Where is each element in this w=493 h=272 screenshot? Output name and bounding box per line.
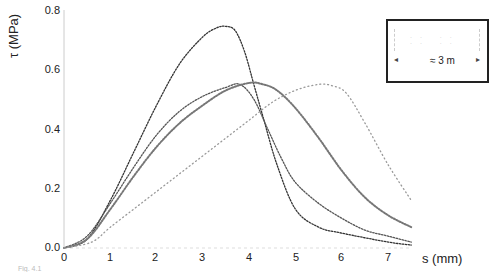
x-tick-label: 3 — [195, 251, 209, 263]
data-series-curve — [64, 26, 411, 248]
arrow-left-icon: ◂ — [394, 55, 398, 64]
x-axis-label: s (mm) — [422, 251, 462, 266]
arrow-right-icon: ▸ — [476, 55, 480, 64]
x-tick-label: 6 — [334, 251, 348, 263]
y-tick-label: 0.8 — [40, 4, 60, 16]
data-series-curve — [64, 84, 411, 248]
inset-diagram: ·· ·· ·· ·· ◂ ≈ 3 m ▸ — [386, 19, 489, 83]
data-series-curve — [64, 84, 411, 248]
y-tick-label: 0.2 — [40, 182, 60, 194]
faint-labels: ·· ·· ·· ·· — [410, 34, 487, 46]
x-tick-label: 5 — [289, 251, 303, 263]
x-tick-label: 0 — [57, 251, 71, 263]
inset-dimension-label: ≈ 3 m — [430, 55, 455, 66]
x-tick-label: 2 — [148, 251, 162, 263]
y-axis-label: τ (MPa) — [6, 14, 21, 58]
dashed-marker — [394, 29, 395, 51]
y-tick-label: 0.4 — [40, 123, 60, 135]
x-tick-label: 7 — [381, 251, 395, 263]
x-tick-label: 4 — [242, 251, 256, 263]
y-tick-label: 0.6 — [40, 63, 60, 75]
data-series — [64, 26, 411, 248]
x-tick-label: 1 — [103, 251, 117, 263]
figure-caption: Fig. 4.1 — [18, 265, 41, 272]
